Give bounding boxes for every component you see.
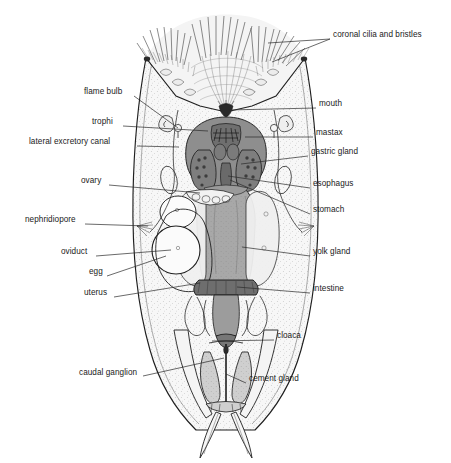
label-yolk-gland: yolk gland [313, 248, 350, 256]
label-ovary: ovary [81, 177, 101, 185]
label-esophagus: esophagus [313, 180, 354, 188]
label-gastric-gland: gastric gland [311, 148, 358, 156]
label-intestine: intestine [313, 285, 344, 293]
label-mouth: mouth [319, 100, 342, 108]
label-mastax: mastax [316, 129, 343, 137]
label-coronal-cilia-and-bristles: coronal cilia and bristles [333, 31, 422, 39]
label-nephridiopore: nephridiopore [25, 216, 76, 224]
label-lateral-excretory-canal: lateral excretory canal [29, 138, 110, 146]
label-cloaca: cloaca [277, 332, 301, 340]
label-flame-bulb: flame bulb [84, 88, 122, 96]
esophagus [221, 163, 232, 188]
label-cement-gland: cement gland [249, 375, 299, 383]
trophi-jaws [211, 124, 241, 161]
rotifer-drawing [0, 0, 451, 463]
label-caudal-ganglion: caudal ganglion [79, 369, 137, 377]
label-uterus: uterus [84, 289, 107, 297]
label-stomach: stomach [313, 206, 344, 214]
label-egg: egg [89, 268, 103, 276]
label-oviduct: oviduct [61, 248, 87, 256]
label-trophi: trophi [92, 118, 113, 126]
rotifer-anatomy-figure: flame bulbtrophilateral excretory canalo… [0, 0, 451, 463]
